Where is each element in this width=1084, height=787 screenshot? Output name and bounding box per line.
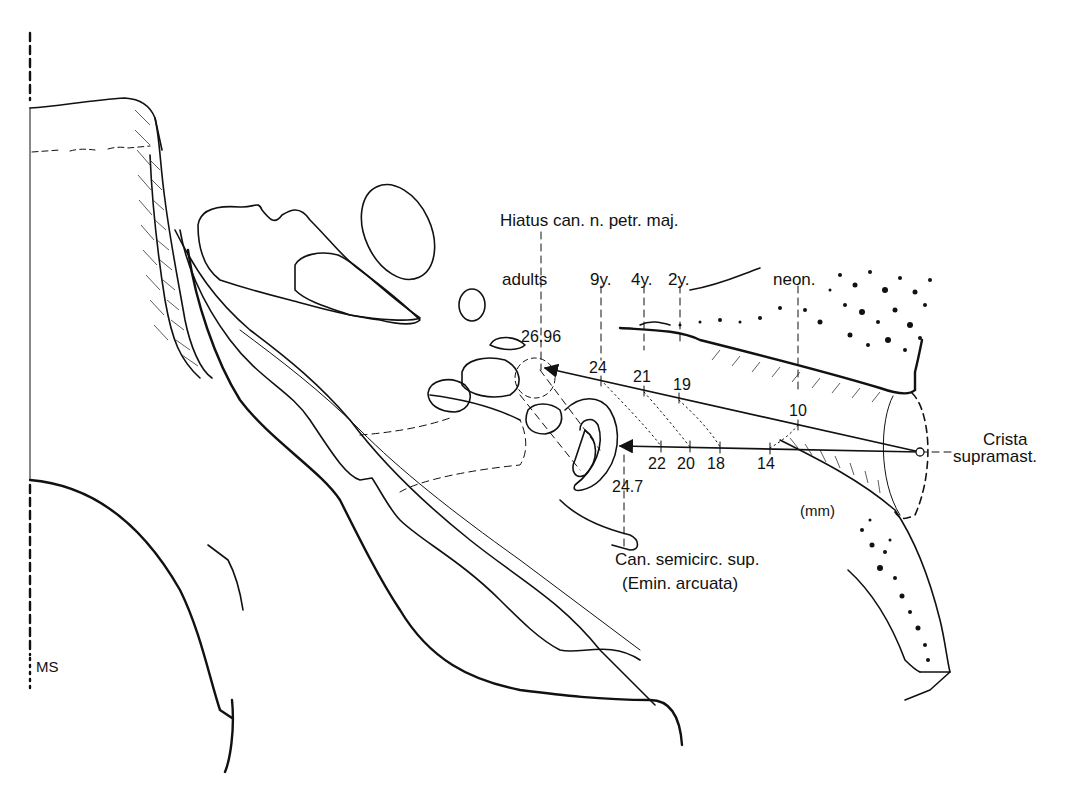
mastoid-cells-lower xyxy=(860,519,930,663)
age-label-4y: 4y. xyxy=(631,270,652,289)
value-neon-lower: 14 xyxy=(757,455,775,472)
age-label-2y: 2y. xyxy=(668,270,689,289)
age-label-neon: neon. xyxy=(773,270,816,289)
value-4y-upper: 21 xyxy=(633,368,651,385)
value-adults-upper: 26.96 xyxy=(521,328,561,345)
crista-point xyxy=(916,448,924,456)
hiatus-label: Hiatus can. n. petr. maj. xyxy=(500,211,679,230)
units-label: (mm) xyxy=(800,502,835,519)
midsagittal-label: MS xyxy=(36,658,59,675)
value-2y-lower: 18 xyxy=(707,455,725,472)
petrous-ridges xyxy=(175,230,682,745)
mastoid-cylinder xyxy=(620,268,950,700)
value-9y-lower: 22 xyxy=(648,455,666,472)
value-4y-lower: 20 xyxy=(677,455,695,472)
left-bone-block xyxy=(30,98,243,772)
age-arc-links xyxy=(601,380,798,448)
canal-label-line2: (Emin. arcuata) xyxy=(622,574,738,593)
value-9y-upper: 24 xyxy=(589,359,607,376)
value-2y-upper: 19 xyxy=(673,376,691,393)
anatomical-diagram: MS xyxy=(0,0,1084,787)
value-adults-lower: 24.7 xyxy=(612,478,643,495)
crista-label-line2: supramast. xyxy=(953,447,1037,466)
age-label-adults: adults xyxy=(502,270,547,289)
canal-label-line1: Can. semicirc. sup. xyxy=(615,550,760,569)
value-neon-upper: 10 xyxy=(789,402,807,419)
upper-lobes xyxy=(198,173,485,324)
age-label-9y: 9y. xyxy=(590,270,611,289)
